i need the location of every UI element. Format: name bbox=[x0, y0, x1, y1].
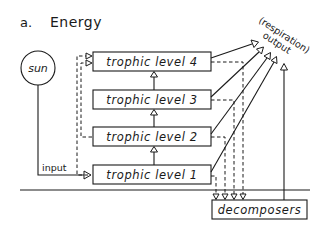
trophic-level-4-label: trophic level 4 bbox=[106, 55, 197, 69]
decomposers-node: decomposers bbox=[212, 200, 307, 219]
upward-flow-arrows bbox=[151, 72, 158, 166]
diagram-title: Energy bbox=[50, 14, 102, 30]
trophic-level-3-label: trophic level 3 bbox=[106, 93, 197, 107]
sun-label: sun bbox=[28, 62, 48, 75]
respiration-output-arrows bbox=[211, 40, 288, 200]
trophic-level-1: trophic level 1 bbox=[93, 165, 211, 184]
trophic-level-1-label: trophic level 1 bbox=[106, 168, 197, 182]
input-label: input bbox=[42, 162, 67, 173]
trophic-level-2-label: trophic level 2 bbox=[106, 130, 197, 144]
energy-flow-diagram: a. Energy sun input trophic level 4 trop… bbox=[0, 0, 332, 236]
decomposers-label: decomposers bbox=[218, 203, 302, 217]
sun-node: sun bbox=[21, 51, 55, 85]
arrowhead-up-icon bbox=[151, 147, 158, 153]
detritus-dashed-lines bbox=[211, 62, 246, 200]
left-dashed-feedback bbox=[77, 53, 92, 175]
trophic-level-4: trophic level 4 bbox=[93, 52, 211, 71]
output-label: (respiration) output bbox=[257, 14, 312, 55]
arrowhead-up-icon bbox=[151, 110, 158, 116]
trophic-level-2: trophic level 2 bbox=[93, 127, 211, 146]
panel-label: a. bbox=[20, 15, 32, 30]
trophic-level-3: trophic level 3 bbox=[93, 90, 211, 109]
arrowhead-up-icon bbox=[151, 72, 158, 78]
